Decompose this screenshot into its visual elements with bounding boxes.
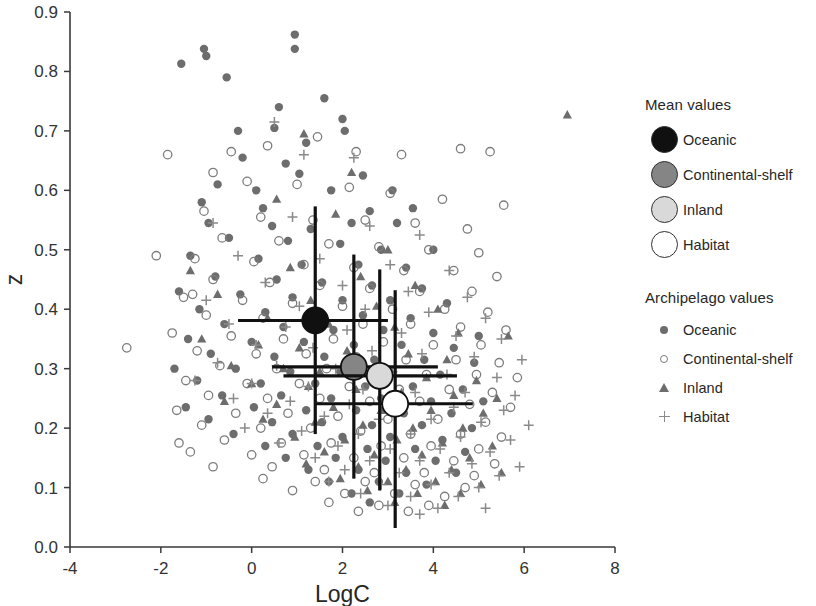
series-oceanic [170,30,487,506]
data-point [415,230,425,240]
legend-key-inland [645,196,683,223]
data-point [204,415,212,423]
x-axis-tick-label: 4 [429,559,438,578]
data-point [477,341,485,349]
legend-item-arch-continental-shelf[interactable]: Continental-shelf [645,344,816,373]
data-point [268,222,276,230]
data-point [177,60,185,68]
data-point [284,409,292,417]
data-point [182,403,190,411]
data-point [229,393,239,403]
data-point [342,346,351,354]
data-point [347,168,356,176]
data-point [227,332,235,340]
data-point [200,207,208,215]
legend-item-mean-inland[interactable]: Inland [645,192,816,227]
data-point [475,332,483,340]
data-point [366,207,374,215]
data-point [320,466,328,474]
data-point [404,507,412,515]
data-point [495,359,503,367]
data-point [445,385,453,393]
data-point [197,334,206,342]
data-point [415,509,425,519]
data-point [510,390,520,400]
legend-label-mean-continental-shelf: Continental-shelf [683,167,793,183]
data-point [486,147,494,155]
data-point [488,388,496,396]
data-point [182,376,190,384]
data-point [201,295,211,305]
data-point [238,153,246,161]
data-point [397,150,405,158]
data-point [175,287,183,295]
data-point [470,471,478,479]
scatter-points-layer [123,30,572,519]
data-point [163,150,171,158]
data-point [417,450,426,458]
data-point [277,391,285,399]
data-point [272,400,281,408]
plot-layer: 0.00.10.20.30.40.50.60.70.80.9-4-202468L… [1,3,620,606]
data-point [450,344,458,352]
legend-label-arch-habitat: Habitat [683,409,729,425]
data-point [320,353,328,361]
data-point [492,394,501,402]
data-point [406,491,416,501]
data-point [375,501,383,509]
data-point [295,169,303,177]
data-point [258,414,267,422]
data-point [475,249,483,257]
data-point [198,421,206,429]
data-point [325,240,333,248]
data-point [295,379,303,387]
data-point [338,280,348,290]
data-point [270,353,278,361]
axis-frame [70,12,615,547]
data-point [186,266,195,274]
data-point [381,457,389,465]
y-axis-tick-label: 0.8 [34,62,58,81]
legend-item-mean-habitat[interactable]: Habitat [645,227,816,262]
data-point [481,313,491,323]
mean-value-marker[interactable] [367,363,393,389]
data-point [288,212,298,222]
mean-value-marker[interactable] [302,308,328,334]
y-axis-tick-label: 0.3 [34,360,58,379]
y-axis-tick-label: 0.4 [34,300,58,319]
legend-item-arch-inland[interactable]: Inland [645,373,816,402]
legend-item-arch-oceanic[interactable]: Oceanic [645,315,816,344]
data-point [490,460,498,468]
data-point [370,450,379,458]
legend-item-mean-oceanic[interactable]: Oceanic [645,122,816,157]
data-point [524,420,534,430]
legend-item-mean-continental-shelf[interactable]: Continental-shelf [645,157,816,192]
data-point [345,382,353,390]
data-point [438,195,446,203]
data-point [195,305,203,313]
y-axis-tick-label: 0.7 [34,122,58,141]
data-point [234,127,242,135]
data-point [259,474,267,482]
data-point [517,355,527,365]
data-point [247,451,255,459]
data-point [411,219,419,227]
data-point [259,204,267,212]
data-point [411,281,420,289]
mean-value-marker[interactable] [382,391,408,417]
data-point [261,442,269,450]
data-point [481,503,491,513]
data-point [506,435,516,445]
legend-item-arch-habitat[interactable]: Habitat [645,402,816,431]
data-point [275,103,283,111]
data-point [300,338,308,346]
data-point [427,442,435,450]
data-point [456,145,464,153]
y-axis-tick-label: 0.5 [34,241,58,260]
x-axis-title: LogC [315,581,370,606]
data-point [186,448,194,456]
data-point [400,454,408,462]
data-point [123,344,131,352]
x-axis-tick-label: 2 [338,559,347,578]
data-point [497,433,505,441]
